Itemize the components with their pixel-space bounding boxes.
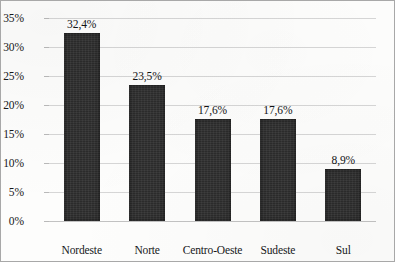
y-axis-tick-mark [44, 18, 49, 19]
bar-value-label-centro-oeste: 17,6% [181, 104, 245, 116]
y-axis-label-30: 30% [0, 41, 24, 53]
y-axis-label-20: 20% [0, 99, 24, 111]
y-axis-label-0: 0% [0, 215, 24, 227]
y-axis-label-25: 25% [0, 70, 24, 82]
bar-sul[interactable] [325, 169, 361, 221]
bar-value-label-nordeste: 32,4% [50, 18, 114, 30]
gridline-0 [49, 221, 376, 222]
bar-value-label-sul: 8,9% [311, 154, 375, 166]
y-axis-tick-mark [44, 221, 49, 222]
bar-value-label-sudeste: 17,6% [246, 104, 310, 116]
bar-value-label-norte: 23,5% [115, 70, 179, 82]
y-axis-tick-mark [44, 47, 49, 48]
y-axis-tick-mark [44, 76, 49, 77]
y-axis-label-10: 10% [0, 157, 24, 169]
y-axis-label-5: 5% [0, 186, 24, 198]
y-axis-tick-mark [44, 134, 49, 135]
plot-area: 0%5%10%15%20%25%30%35%32,4%Nordeste23,5%… [49, 18, 376, 221]
bar-sudeste[interactable] [260, 119, 296, 221]
y-axis-label-35: 35% [0, 12, 24, 24]
y-axis-tick-mark [44, 105, 49, 106]
y-axis-label-15: 15% [0, 128, 24, 140]
y-axis-tick-mark [44, 163, 49, 164]
bar-nordeste[interactable] [64, 33, 100, 221]
bar-chart-figure: 0%5%10%15%20%25%30%35%32,4%Nordeste23,5%… [0, 0, 395, 262]
bar-centro-oeste[interactable] [195, 119, 231, 221]
y-axis-tick-mark [44, 192, 49, 193]
bar-norte[interactable] [129, 85, 165, 221]
x-axis-label-sul: Sul [291, 244, 395, 256]
